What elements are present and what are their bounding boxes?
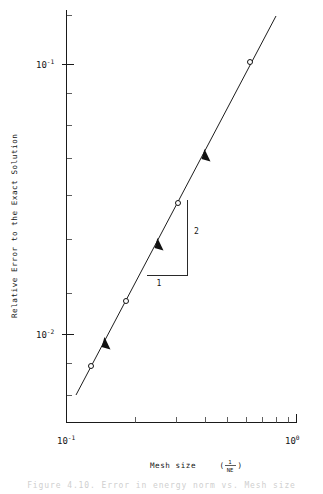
x-axis-title: Mesh size	[150, 461, 196, 470]
y-tick-label-1e-1: 10-1	[36, 58, 55, 70]
x-tick-label-1e0: 100	[285, 434, 300, 446]
y-axis-title: Relative Error to the Exact Solution	[10, 134, 19, 318]
x-axis-title-paren-close: )	[237, 461, 242, 470]
data-point	[248, 60, 253, 65]
x-axis-title-group: Mesh size ( 1 NE )	[150, 459, 243, 473]
x-axis-fraction-denominator: NE	[227, 467, 234, 473]
data-point-markers	[89, 60, 253, 369]
line-direction-arrow-icon-upper	[202, 149, 211, 162]
x-tick-mantissa: 10	[285, 436, 296, 446]
y-axis-major-ticks	[62, 65, 74, 335]
y-tick-exponent: -1	[47, 58, 55, 65]
y-axis-minor-ticks	[67, 16, 73, 396]
slope-triangle-run-label: 1	[157, 279, 162, 288]
x-axis-fraction-numerator: 1	[228, 459, 231, 465]
data-point	[89, 364, 94, 369]
log-log-convergence-chart: 1 2 10-1 10-2 10-1 100 Relative Error to…	[0, 0, 323, 494]
figure-caption: Figure 4.10. Error in energy norm vs. Me…	[0, 481, 323, 490]
slope-triangle-rise-label: 2	[194, 227, 199, 236]
y-tick-mantissa: 10	[36, 330, 47, 340]
data-series-line	[76, 16, 276, 395]
y-tick-exponent: -2	[47, 328, 55, 335]
x-tick-label-1e-1: 10-1	[57, 434, 76, 446]
y-tick-label-1e-2: 10-2	[36, 328, 55, 340]
x-axis-title-paren-open: (	[219, 461, 224, 470]
x-tick-exponent: 0	[296, 434, 300, 441]
line-direction-arrow-icon-middle	[155, 238, 164, 251]
slope-triangle	[147, 200, 188, 276]
figure-root: 1 2 10-1 10-2 10-1 100 Relative Error to…	[0, 0, 323, 494]
data-point	[176, 201, 181, 206]
data-point	[124, 299, 129, 304]
y-tick-mantissa: 10	[36, 60, 47, 70]
x-tick-mantissa: 10	[57, 436, 68, 446]
x-axis-minor-ticks	[136, 417, 289, 423]
x-axis-major-ticks	[67, 414, 297, 423]
x-tick-exponent: -1	[68, 434, 76, 441]
